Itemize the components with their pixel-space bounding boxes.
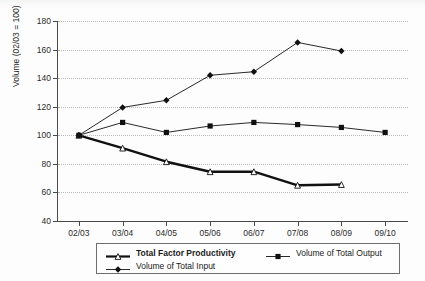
- y-axis-title: Volume (02/03 = 100): [11, 5, 21, 87]
- x-axis-tick-label: 05/06: [185, 228, 235, 238]
- legend-marker: [115, 266, 121, 272]
- x-axis-tick: [166, 221, 167, 226]
- y-axis-tick-label: 140: [25, 73, 51, 83]
- x-axis-line: [57, 221, 408, 222]
- data-point: [251, 69, 257, 75]
- x-axis-tick-label: 09/10: [360, 228, 410, 238]
- x-axis-tick: [210, 221, 211, 226]
- legend-marker: [275, 254, 280, 259]
- y-axis-labels: 406080100120140160180: [25, 21, 51, 221]
- series-line: [79, 135, 342, 185]
- series-volume-of-total-output: [76, 120, 387, 138]
- data-point: [163, 97, 169, 103]
- data-point: [383, 130, 388, 135]
- x-axis-tick-label: 04/05: [141, 228, 191, 238]
- legend-item[interactable]: Total Factor Productivity: [105, 247, 236, 260]
- series-total-factor-productivity: [76, 132, 344, 188]
- x-axis-tick-label: 03/04: [98, 228, 148, 238]
- y-axis-tick: [53, 221, 57, 222]
- chart-page: 406080100120140160180 02/0303/0404/0505/…: [0, 0, 425, 281]
- x-axis-tick: [123, 221, 124, 226]
- data-point: [119, 104, 125, 110]
- data-point: [338, 48, 344, 54]
- x-axis-tick: [298, 221, 299, 226]
- legend-label: Total Factor Productivity: [136, 248, 236, 259]
- legend-label: Volume of Total Output: [296, 248, 382, 259]
- chart-legend: Total Factor ProductivityVolume of Total…: [96, 243, 400, 274]
- x-axis-tick: [341, 221, 342, 226]
- x-axis-tick-label: 07/08: [273, 228, 323, 238]
- series-layer: [57, 21, 407, 221]
- series-line: [79, 42, 342, 135]
- data-point: [207, 72, 213, 78]
- legend-key: [265, 248, 291, 259]
- data-point: [208, 123, 213, 128]
- legend-item[interactable]: Volume of Total Output: [265, 247, 382, 260]
- data-point: [120, 120, 125, 125]
- legend-key-icon: [265, 251, 291, 262]
- legend-key-icon: [105, 264, 131, 275]
- x-axis-tick-label: 06/07: [229, 228, 279, 238]
- legend-item[interactable]: Volume of Total Input: [105, 260, 215, 273]
- data-point: [295, 122, 300, 127]
- x-axis-tick-label: 02/03: [54, 228, 104, 238]
- x-axis-tick: [385, 221, 386, 226]
- legend-label: Volume of Total Input: [136, 261, 215, 272]
- legend-key: [105, 248, 131, 259]
- y-axis-tick-label: 60: [25, 187, 51, 197]
- y-axis-tick-label: 160: [25, 45, 51, 55]
- data-point: [339, 125, 344, 130]
- data-point: [251, 120, 256, 125]
- plot-area: 406080100120140160180 02/0303/0404/0505/…: [57, 21, 407, 221]
- x-axis-tick: [254, 221, 255, 226]
- y-axis-tick-label: 120: [25, 102, 51, 112]
- legend-key: [105, 261, 131, 272]
- y-axis-tick-label: 80: [25, 159, 51, 169]
- data-point: [294, 39, 300, 45]
- y-axis-tick-label: 100: [25, 130, 51, 140]
- x-axis-tick: [79, 221, 80, 226]
- y-axis-tick-label: 180: [25, 16, 51, 26]
- data-point: [164, 130, 169, 135]
- x-axis-tick-label: 08/09: [316, 228, 366, 238]
- y-axis-tick-label: 40: [25, 216, 51, 226]
